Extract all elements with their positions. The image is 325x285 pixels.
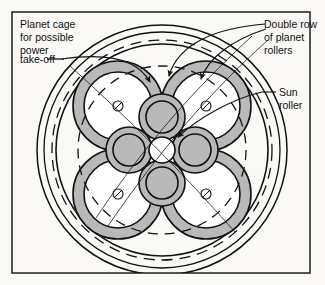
planet-cage-line-2: for possible: [20, 31, 74, 43]
double-row-line-1: Double row: [264, 18, 318, 30]
double-row-line-2: of planet: [264, 31, 304, 43]
inner-roller-right: [172, 127, 218, 173]
inner-roller-core: [179, 134, 211, 166]
sun-roller-line-1: Sun: [279, 86, 298, 98]
inner-roller-core: [113, 134, 145, 166]
planet-cage-line-4: take-off: [20, 53, 55, 65]
planetary-roller-diagram: Planet cage for possible power take-off …: [0, 0, 325, 285]
sun-roller-line-2: roller: [279, 99, 303, 111]
inner-roller-core: [146, 167, 178, 199]
figure-container: Planet cage for possible power take-off …: [0, 0, 325, 285]
planet-cage-line-1: Planet cage: [20, 18, 76, 30]
inner-roller-bottom: [139, 160, 185, 206]
double-row-line-3: rollers: [264, 44, 293, 56]
